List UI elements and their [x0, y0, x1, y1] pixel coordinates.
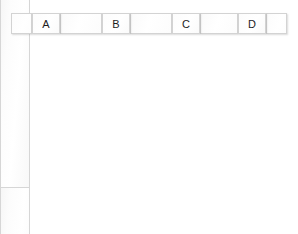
header-trailing-cap [266, 13, 287, 34]
column-head-b[interactable]: B [102, 13, 130, 34]
header-spacer-3 [200, 13, 238, 34]
column-label-a: A [33, 18, 59, 29]
diagram-canvas: A B C D [0, 0, 298, 234]
column-label-b: B [103, 18, 129, 29]
header-spacer-2 [130, 13, 172, 34]
column-head-a[interactable]: A [32, 13, 60, 34]
column-head-d[interactable]: D [238, 13, 266, 34]
prong-b[interactable] [0, 188, 30, 234]
header-spacer-1 [60, 13, 102, 34]
column-head-c[interactable]: C [172, 13, 200, 34]
column-label-d: D [239, 18, 265, 29]
header-leading-cap [11, 13, 32, 34]
column-label-c: C [173, 18, 199, 29]
